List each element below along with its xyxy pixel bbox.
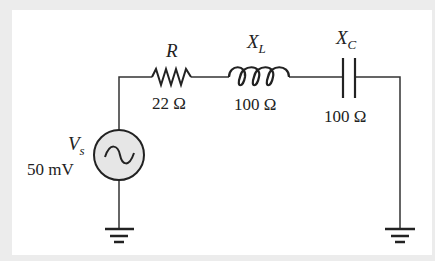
inductor-symbol: XL [246,31,266,56]
ground-icon-right [385,229,415,242]
ground-icon-left [105,229,134,242]
ac-source-icon [94,130,144,180]
wire-right [355,77,400,229]
resistor-symbol: R [165,40,178,61]
resistor-value: 22 Ω [152,94,186,113]
wire-left [119,77,152,130]
source-value: 50 mV [27,160,74,179]
capacitor-value: 100 Ω [324,107,366,126]
inductor-value: 100 Ω [234,95,276,114]
capacitor-symbol: XC [335,27,357,52]
resistor-icon [152,69,191,85]
capacitor-icon [343,58,355,98]
inductor-icon [229,67,289,85]
circuit-diagram: R 22 Ω XL 100 Ω XC 100 Ω Vs 50 mV [0,0,435,261]
source-symbol: Vs [68,133,85,158]
